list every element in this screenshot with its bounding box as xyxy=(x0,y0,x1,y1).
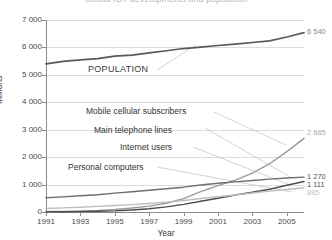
series-lines xyxy=(0,0,332,240)
series-label-mobile: Mobile cellular subscribers xyxy=(86,107,186,116)
line-telephone xyxy=(46,177,304,198)
series-label-computers: Personal computers xyxy=(68,163,144,172)
leader-mobile xyxy=(214,112,286,145)
population-label: POPULATION xyxy=(88,64,148,74)
line-population xyxy=(46,33,304,64)
value-label-population: 6 540 xyxy=(307,28,326,36)
series-label-internet: Internet users xyxy=(120,143,172,152)
chart-container: Global ICT developments and population 7… xyxy=(0,0,332,240)
value-label-computers: 885 xyxy=(307,189,320,197)
value-label-mobile: 2 685 xyxy=(307,129,326,137)
leader-telephone xyxy=(205,128,292,178)
leader-lines xyxy=(157,45,292,192)
series-label-telephone: Main telephone lines xyxy=(94,126,172,135)
